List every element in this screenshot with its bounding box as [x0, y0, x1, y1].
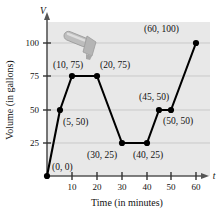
point-label-30-25: (30, 25): [87, 150, 117, 161]
x-tick-label-10: 10: [68, 182, 78, 192]
y-axis-title: Volume (in gallons): [4, 60, 16, 139]
point-label-5-50: (5, 50): [63, 117, 88, 128]
point-label-40-25: (40, 25): [133, 150, 163, 161]
x-axis-variable: t: [213, 171, 216, 181]
y-tick-label-25: 25: [30, 138, 40, 148]
point-label-20-75: (20, 75): [100, 60, 130, 71]
volume-time-chart: 100 75 50 25 10 20 30 40 50 60 V t Time …: [0, 0, 223, 216]
point-label-60-100: (60, 100): [144, 24, 179, 35]
x-tick-label-30: 30: [118, 182, 128, 192]
x-tick-label-20: 20: [93, 182, 103, 192]
point-label-50-50: (50, 50): [163, 116, 193, 127]
point-label-45-50: (45, 50): [139, 92, 169, 103]
x-tick-label-50: 50: [167, 182, 177, 192]
plot-background: [47, 22, 210, 176]
point-label-10-75: (10, 75): [53, 60, 83, 71]
y-tick-label-50: 50: [30, 105, 40, 115]
y-tick-label-100: 100: [26, 38, 40, 48]
x-tick-label-60: 60: [192, 182, 202, 192]
point-label-0-0: (0, 0): [52, 162, 73, 173]
x-tick-label-40: 40: [143, 182, 153, 192]
x-axis-title: Time (in minutes): [91, 197, 163, 209]
y-axis-variable: V: [40, 6, 47, 16]
chart-svg: 100 75 50 25 10 20 30 40 50 60 V t Time …: [0, 0, 223, 216]
y-tick-label-75: 75: [30, 71, 40, 81]
